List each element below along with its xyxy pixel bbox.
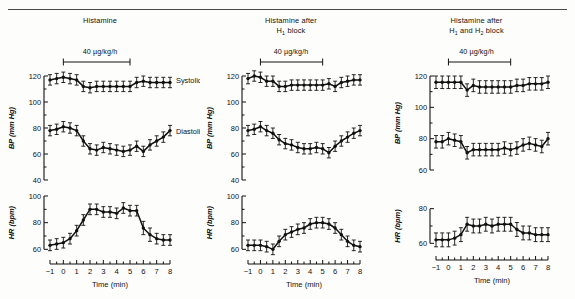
- data-point: [101, 207, 105, 218]
- data-point: [88, 204, 92, 215]
- data-point: [148, 77, 152, 87]
- data-point: [68, 73, 72, 83]
- hr-axis-label: HR (bpm): [7, 206, 16, 240]
- data-point: [95, 145, 99, 155]
- data-point: [81, 215, 85, 226]
- x-tick-label: 6: [521, 263, 525, 272]
- data-point: [308, 219, 312, 230]
- data-point: [271, 244, 275, 255]
- data-point: [246, 125, 250, 135]
- data-point: [283, 229, 287, 240]
- y-tick-label: 60: [33, 150, 41, 159]
- panel-2-charts: 406080100120BP (mm Hg)6080100HR (bpm)−10…: [196, 0, 386, 299]
- data-point: [484, 81, 488, 94]
- data-point: [440, 233, 444, 247]
- x-tick-label: −1: [432, 263, 441, 272]
- data-point: [75, 125, 79, 135]
- x-axis-label: Time (min): [474, 276, 510, 285]
- panel-h1-h2-block: Histamine after H1 and H2 block 40 µg/kg…: [378, 0, 575, 299]
- data-point: [527, 78, 531, 91]
- data-point: [509, 217, 513, 231]
- data-point: [55, 73, 59, 83]
- data-point: [81, 81, 85, 91]
- data-point: [446, 233, 450, 247]
- data-point: [471, 219, 475, 233]
- data-point: [61, 122, 65, 132]
- data-point: [88, 144, 92, 154]
- data-point: [515, 79, 519, 92]
- x-tick-label: 0: [446, 263, 450, 272]
- x-tick-label: 7: [155, 267, 159, 276]
- data-point: [135, 77, 139, 87]
- data-point: [161, 132, 165, 142]
- data-point: [81, 136, 85, 146]
- data-point: [521, 226, 525, 240]
- data-point: [484, 217, 488, 231]
- x-tick-label: 8: [168, 267, 172, 276]
- data-point: [546, 132, 550, 145]
- x-tick-label: 4: [496, 263, 500, 272]
- data-point: [121, 203, 125, 214]
- x-tick-label: 6: [333, 267, 337, 276]
- data-point: [339, 77, 343, 87]
- data-point: [68, 233, 72, 244]
- data-point: [465, 217, 469, 231]
- data-point: [327, 219, 331, 230]
- data-point: [496, 81, 500, 94]
- data-point: [68, 123, 72, 133]
- infusion-bar: [63, 59, 130, 66]
- y-tick-label: 60: [231, 245, 239, 254]
- data-point: [168, 125, 172, 135]
- x-tick-label: 4: [115, 267, 119, 276]
- data-point: [258, 72, 262, 82]
- x-tick-label: 0: [258, 267, 262, 276]
- data-point: [141, 76, 145, 86]
- data-point: [296, 224, 300, 235]
- data-point: [290, 80, 294, 90]
- x-tick-label: 4: [308, 267, 312, 276]
- y-tick-label: 80: [231, 218, 239, 227]
- x-tick-label: 5: [321, 267, 325, 276]
- data-point: [471, 143, 475, 156]
- data-point: [88, 83, 92, 93]
- data-point: [283, 81, 287, 91]
- data-point: [478, 219, 482, 233]
- data-point: [75, 225, 79, 236]
- y-tick-label: 100: [29, 98, 41, 107]
- y-tick-label: 60: [419, 239, 427, 248]
- data-point: [321, 144, 325, 154]
- data-point: [502, 142, 506, 155]
- x-tick-label: 8: [358, 267, 362, 276]
- data-point: [465, 84, 469, 97]
- data-point: [478, 81, 482, 94]
- x-tick-label: 8: [546, 263, 550, 272]
- data-point: [121, 146, 125, 156]
- infusion-bar: [448, 59, 510, 66]
- y-tick-label: 100: [415, 103, 427, 112]
- data-point: [277, 81, 281, 91]
- data-point: [490, 81, 494, 94]
- y-tick-label: 60: [33, 245, 41, 254]
- y-tick-label: 100: [29, 192, 41, 201]
- data-point: [490, 219, 494, 233]
- data-point: [161, 235, 165, 246]
- bp-axis-label: BP (mm Hg): [7, 106, 16, 149]
- x-tick-label: 5: [509, 263, 513, 272]
- data-point: [339, 229, 343, 240]
- y-tick-label: 60: [231, 150, 239, 159]
- data-point: [314, 217, 318, 228]
- x-tick-label: 2: [283, 267, 287, 276]
- data-point: [155, 77, 159, 87]
- data-point: [108, 81, 112, 91]
- data-point: [258, 122, 262, 132]
- data-point: [246, 73, 250, 83]
- data-point: [509, 81, 513, 94]
- data-point: [101, 81, 105, 91]
- data-point: [115, 81, 119, 91]
- data-point: [252, 240, 256, 251]
- data-point: [101, 142, 105, 152]
- data-point: [246, 240, 250, 251]
- data-point: [540, 140, 544, 153]
- data-point: [135, 141, 139, 151]
- panel-3-charts: 6080100120BP (mm Hg)6080HR (bpm)−1012345…: [378, 0, 575, 299]
